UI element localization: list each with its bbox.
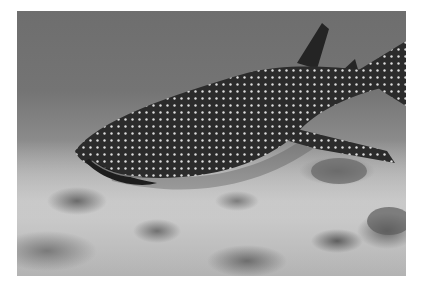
whale-shark [17, 11, 406, 276]
coral-patch [311, 158, 367, 184]
whale-shark-photo [17, 11, 406, 276]
dorsal-fin [297, 23, 329, 69]
